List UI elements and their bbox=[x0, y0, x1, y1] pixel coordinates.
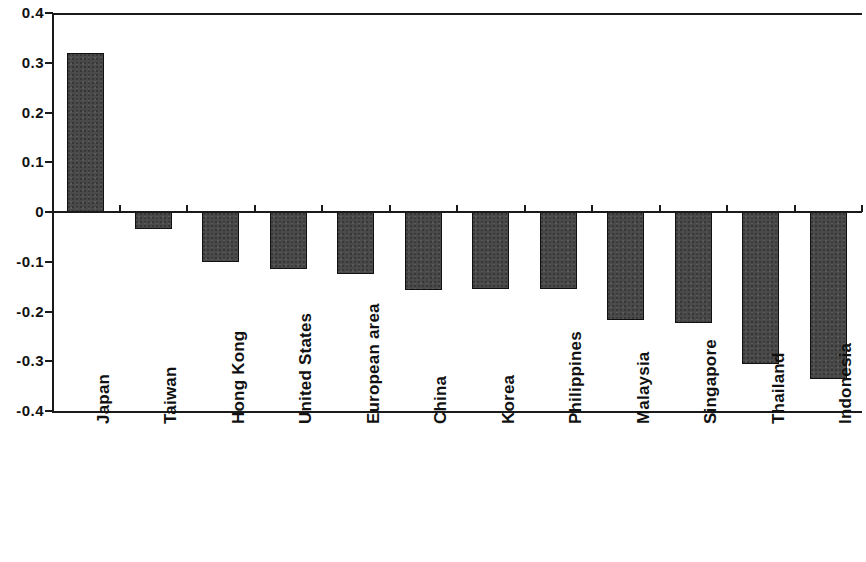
bar bbox=[540, 212, 577, 289]
x-axis-tick-mark bbox=[389, 205, 391, 212]
x-axis-category-label: Philippines bbox=[567, 331, 584, 424]
bar bbox=[472, 212, 509, 289]
x-axis-category-label: Malaysia bbox=[635, 352, 652, 424]
x-axis-category-label: Thailand bbox=[770, 353, 787, 425]
x-axis-tick-mark bbox=[861, 205, 863, 212]
x-axis-tick-mark bbox=[794, 205, 796, 212]
bar-chart: 0.40.30.20.10-0.1-0.2-0.3-0.4 JapanTaiwa… bbox=[0, 0, 866, 562]
x-axis-tick-mark bbox=[524, 205, 526, 212]
bar bbox=[675, 212, 712, 323]
x-axis-category-label: China bbox=[432, 376, 449, 424]
x-axis-category-label: Taiwan bbox=[162, 366, 179, 424]
y-axis-tick-label: -0.3 bbox=[0, 353, 44, 368]
x-axis-category-label: Hong Kong bbox=[230, 331, 247, 424]
bar bbox=[135, 212, 172, 229]
bar bbox=[405, 212, 442, 290]
x-axis-category-label: United States bbox=[297, 313, 314, 424]
x-axis-tick-mark bbox=[659, 205, 661, 212]
x-axis-tick-mark bbox=[591, 205, 593, 212]
x-axis-category-label: Indonesia bbox=[837, 343, 854, 424]
x-axis-tick-mark bbox=[321, 205, 323, 212]
x-axis-tick-mark bbox=[119, 205, 121, 212]
y-axis-tick-label: 0.3 bbox=[0, 55, 44, 70]
y-axis-tick-label: 0.2 bbox=[0, 105, 44, 120]
x-axis-category-label: Korea bbox=[500, 375, 517, 424]
bar bbox=[67, 53, 104, 212]
x-axis-category-label: Singapore bbox=[702, 339, 719, 424]
y-axis-tick-label: -0.2 bbox=[0, 304, 44, 319]
x-axis-tick-mark bbox=[726, 205, 728, 212]
bar bbox=[742, 212, 779, 364]
y-axis-tick-label: -0.1 bbox=[0, 254, 44, 269]
bar bbox=[337, 212, 374, 274]
bar bbox=[202, 212, 239, 262]
y-axis-tick-label: 0 bbox=[0, 204, 44, 219]
x-axis-category-label: European area bbox=[365, 303, 382, 424]
y-axis-tick-label: 0.4 bbox=[0, 5, 44, 20]
x-axis-category-label: Japan bbox=[95, 374, 112, 424]
bar bbox=[270, 212, 307, 269]
plot-top-border bbox=[52, 13, 862, 15]
y-axis-line bbox=[52, 13, 54, 413]
x-axis-tick-mark bbox=[254, 205, 256, 212]
x-axis-tick-mark bbox=[456, 205, 458, 212]
x-axis-tick-mark bbox=[186, 205, 188, 212]
y-axis-tick-label: 0.1 bbox=[0, 154, 44, 169]
y-axis-tick-label: -0.4 bbox=[0, 403, 44, 418]
bar bbox=[607, 212, 644, 320]
